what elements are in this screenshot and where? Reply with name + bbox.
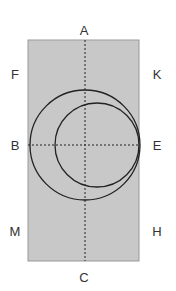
label-f: F bbox=[11, 67, 19, 82]
label-k: K bbox=[153, 67, 162, 82]
label-a: A bbox=[80, 23, 89, 38]
label-b: B bbox=[11, 138, 20, 153]
label-h: H bbox=[152, 224, 161, 239]
label-c: C bbox=[79, 270, 88, 285]
diagram-canvas: ACBEFKMH bbox=[0, 0, 176, 291]
geometry-diagram: ACBEFKMH bbox=[0, 0, 176, 291]
label-m: M bbox=[10, 224, 21, 239]
shaded-rectangle bbox=[28, 40, 139, 261]
label-e: E bbox=[153, 138, 162, 153]
